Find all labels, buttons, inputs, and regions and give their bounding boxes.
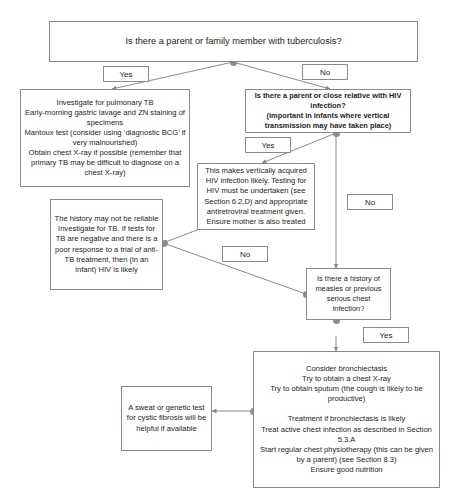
node-measles-question-text: Is there a history of measles or previou… xyxy=(307,274,390,313)
node-measles-question: Is there a history of measles or previou… xyxy=(306,268,391,320)
edge-label-hiv-yes: Yes xyxy=(245,137,291,153)
node-investigate-tb-text: Investigate for pulmonary TB Early-morni… xyxy=(21,98,189,178)
edge-label-measles-no: No xyxy=(222,246,268,262)
node-cystic-fibrosis-text: A sweat or genetic test for cystic fibro… xyxy=(122,403,211,433)
node-history-not-reliable: The history may not be reliable Investig… xyxy=(50,199,163,290)
node-bronchiectasis: Consider bronchiectasis Try to obtain a … xyxy=(253,351,440,488)
edge-label-root-yes: Yes xyxy=(103,66,149,82)
edge-label-measles-yes: Yes xyxy=(363,327,409,343)
node-bronchiectasis-text: Consider bronchiectasis Try to obtain a … xyxy=(254,364,439,474)
node-vertically-acquired-hiv-text: This makes vertically acquired HIV infec… xyxy=(198,166,314,226)
node-hiv-question: Is there a parent or close relative with… xyxy=(245,89,411,133)
node-root-question: Is there a parent or family member with … xyxy=(49,21,418,62)
node-history-not-reliable-text: The history may not be reliable Investig… xyxy=(51,214,162,274)
edge-label-root-no: No xyxy=(302,64,348,80)
flowchart-canvas: Is there a parent or family member with … xyxy=(0,0,459,494)
node-hiv-question-text: Is there a parent or close relative with… xyxy=(246,91,410,130)
node-cystic-fibrosis: A sweat or genetic test for cystic fibro… xyxy=(121,386,212,451)
node-vertically-acquired-hiv: This makes vertically acquired HIV infec… xyxy=(197,163,315,230)
node-root-question-text: Is there a parent or family member with … xyxy=(50,35,417,47)
node-investigate-tb: Investigate for pulmonary TB Early-morni… xyxy=(20,89,190,187)
edge-label-hiv-no: No xyxy=(347,194,393,210)
edge-hiv-to-history xyxy=(163,230,197,243)
